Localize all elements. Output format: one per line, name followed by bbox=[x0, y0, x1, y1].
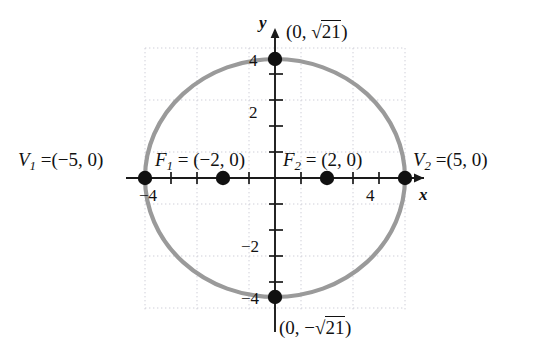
label-vertex-right-equals: = bbox=[436, 149, 447, 170]
label-covertex-top-suffix: ) bbox=[341, 21, 347, 42]
label-focus-right-equals: = bbox=[306, 149, 317, 170]
label-vertex-right-point: (5, 0) bbox=[447, 149, 488, 170]
label-vertex-left: V1 =(−5, 0) bbox=[18, 150, 103, 173]
label-covertex-bottom-radicand: 21 bbox=[325, 316, 345, 338]
x-tick-label-neg-4: −4 bbox=[139, 187, 157, 204]
label-covertex-top-radicand: 21 bbox=[321, 20, 341, 42]
point-covertex-top bbox=[268, 52, 282, 66]
label-focus-right-point: (2, 0) bbox=[321, 149, 362, 170]
point-covertex-bottom bbox=[268, 290, 282, 304]
point-focus-right bbox=[320, 171, 334, 185]
ellipse-figure: V1 =(−5, 0) F1 = (−2, 0) F2 = (2, 0) V2 … bbox=[0, 0, 533, 353]
label-vertex-left-equals: = bbox=[41, 149, 52, 170]
label-vertex-right-name: V bbox=[413, 149, 425, 170]
y-tick-label-2: 2 bbox=[249, 104, 258, 121]
label-focus-left-subscript: 1 bbox=[167, 158, 173, 173]
y-axis-arrow bbox=[271, 28, 280, 38]
label-covertex-bottom-suffix: ) bbox=[345, 317, 351, 338]
label-focus-left: F1 = (−2, 0) bbox=[155, 150, 245, 173]
label-covertex-top: (0, √21) bbox=[286, 22, 348, 41]
label-vertex-left-name: V bbox=[18, 149, 30, 170]
y-tick-label-neg-4: −4 bbox=[241, 290, 259, 307]
label-covertex-top-prefix: (0, bbox=[286, 21, 311, 42]
sqrt-icon: √21 bbox=[315, 318, 345, 337]
radical-sign: √ bbox=[315, 317, 325, 338]
label-covertex-bottom: (0, −√21) bbox=[279, 318, 351, 337]
label-vertex-right-subscript: 2 bbox=[425, 158, 431, 173]
label-focus-left-equals: = bbox=[178, 149, 189, 170]
point-vertex-left bbox=[138, 171, 152, 185]
label-focus-left-name: F bbox=[155, 149, 167, 170]
x-axis-label: x bbox=[419, 186, 428, 203]
y-axis-label: y bbox=[259, 14, 267, 31]
label-focus-right-subscript: 2 bbox=[295, 158, 301, 173]
x-axis-arrow bbox=[414, 174, 424, 183]
plot-canvas bbox=[0, 0, 533, 353]
point-focus-left bbox=[216, 171, 230, 185]
point-vertex-right bbox=[398, 171, 412, 185]
sqrt-icon: √21 bbox=[311, 22, 341, 41]
label-focus-left-point: (−2, 0) bbox=[193, 149, 245, 170]
y-tick-label-4: 4 bbox=[249, 52, 258, 69]
label-covertex-bottom-prefix: (0, − bbox=[279, 317, 315, 338]
label-vertex-left-subscript: 1 bbox=[30, 158, 36, 173]
y-tick-label-neg-2: −2 bbox=[241, 238, 259, 255]
label-vertex-right: V2 =(5, 0) bbox=[413, 150, 488, 173]
x-tick-label-4: 4 bbox=[366, 187, 375, 204]
label-focus-right-name: F bbox=[283, 149, 295, 170]
label-vertex-left-point: (−5, 0) bbox=[52, 149, 104, 170]
label-focus-right: F2 = (2, 0) bbox=[283, 150, 362, 173]
